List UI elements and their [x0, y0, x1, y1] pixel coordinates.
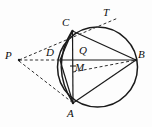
point-label-C: C [62, 17, 69, 28]
point-label-P: P [5, 50, 12, 61]
arc-c-d-a [61, 31, 73, 103]
point-label-D: D [46, 47, 54, 58]
segment-p-a [19, 61, 73, 103]
point-label-B: B [138, 49, 145, 60]
point-dot-a [72, 102, 74, 104]
point-dot-p [18, 59, 20, 61]
point-dot-b [135, 59, 137, 61]
chord-c-d [60, 31, 73, 60]
point-label-T: T [103, 7, 109, 18]
point-label-M: M [75, 62, 84, 73]
geometry-figure: T C Q B P D M A [0, 0, 152, 127]
chord-c-a [73, 31, 74, 103]
point-dot-c [71, 30, 73, 32]
point-label-Q: Q [79, 45, 87, 56]
point-label-A: A [67, 108, 74, 119]
